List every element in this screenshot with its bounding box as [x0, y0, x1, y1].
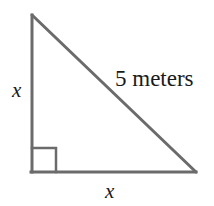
label-vertical-leg: x	[12, 80, 21, 101]
label-hypotenuse: 5 meters	[115, 67, 194, 90]
right-triangle-figure: x x 5 meters	[0, 0, 214, 206]
right-angle-marker-icon	[32, 148, 56, 172]
label-horizontal-leg: x	[105, 181, 114, 202]
triangle-drawing	[0, 0, 214, 206]
